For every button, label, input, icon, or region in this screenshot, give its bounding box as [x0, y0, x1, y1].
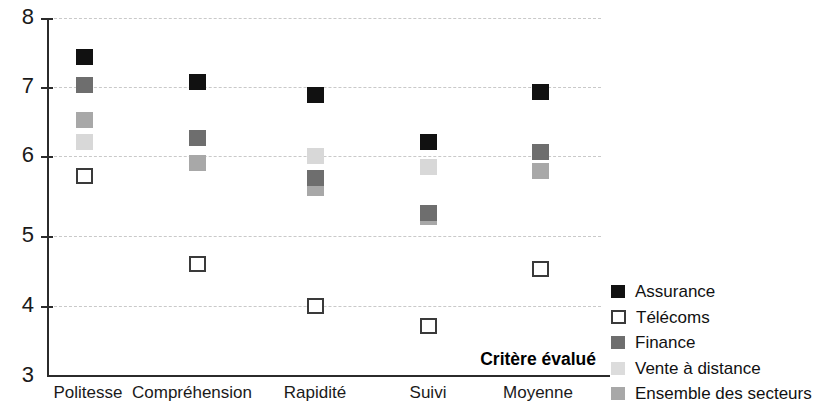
legend-swatch-assurance-icon [611, 285, 625, 298]
x-label-moyenne: Moyenne [468, 383, 608, 402]
legend-item-finance: Finance [611, 330, 835, 356]
point-telecoms-politesse [76, 168, 93, 184]
point-finance-politesse [76, 77, 93, 93]
point-telecoms-moyenne [532, 261, 549, 277]
y-tick-label-8: 8 [0, 6, 34, 28]
point-telecoms-rapidite [307, 298, 324, 314]
legend-label-telecoms: Télécoms [636, 308, 710, 327]
point-finance-comprehension [189, 130, 206, 146]
y-tick-7 [41, 87, 53, 89]
legend-swatch-telecoms-icon [611, 310, 626, 324]
legend-item-vente-a-distance: Vente à distance [611, 356, 835, 382]
gridline-7 [49, 87, 601, 88]
legend-swatch-vente-a-distance-icon [611, 362, 625, 375]
gridline-5 [49, 236, 601, 237]
x-axis-title: Critère évalué [480, 349, 596, 370]
legend-item-assurance: Assurance [611, 279, 835, 305]
point-finance-suivi [420, 205, 437, 221]
chart-figure: 8 7 6 5 4 3 Politesse Compréhension Rapi… [0, 0, 835, 419]
point-telecoms-comprehension [189, 256, 206, 272]
legend-swatch-ensemble-des-secteurs-icon [611, 387, 625, 400]
y-axis [47, 18, 49, 376]
point-finance-rapidite [307, 170, 324, 186]
y-tick-8 [41, 18, 53, 20]
legend-swatch-finance-icon [611, 336, 625, 349]
point-assurance-moyenne [532, 84, 549, 100]
y-tick-label-7: 7 [0, 75, 34, 97]
legend-label-assurance: Assurance [635, 282, 715, 301]
chart-legend: Assurance Télécoms Finance Vente à dista… [611, 279, 835, 407]
x-axis [47, 375, 610, 377]
y-tick-4 [41, 306, 53, 308]
plot-area: 8 7 6 5 4 3 Politesse Compréhension Rapi… [0, 0, 610, 419]
point-ensemble-des-secteurs-politesse [76, 112, 93, 128]
point-ensemble-des-secteurs-comprehension [189, 155, 206, 171]
point-ensemble-des-secteurs-moyenne [532, 163, 549, 179]
y-tick-6 [41, 156, 53, 158]
point-telecoms-suivi [420, 318, 437, 334]
y-tick-label-6: 6 [0, 144, 34, 166]
point-assurance-politesse [76, 49, 93, 65]
point-vente-a-distance-politesse [76, 134, 93, 150]
legend-item-telecoms: Télécoms [611, 305, 835, 331]
point-finance-moyenne [532, 144, 549, 160]
point-vente-a-distance-suivi [420, 159, 437, 175]
y-tick-label-4: 4 [0, 294, 34, 316]
point-assurance-comprehension [189, 74, 206, 90]
y-tick-5 [41, 236, 53, 238]
gridline-4 [49, 306, 601, 307]
point-vente-a-distance-rapidite [307, 148, 324, 164]
point-assurance-suivi [420, 134, 437, 150]
gridline-8 [49, 18, 601, 19]
gridline-6 [49, 156, 601, 157]
legend-label-ensemble-des-secteurs: Ensemble des secteurs [635, 384, 812, 403]
y-tick-label-5: 5 [0, 224, 34, 246]
x-label-comprehension: Compréhension [122, 383, 262, 402]
legend-item-ensemble-des-secteurs: Ensemble des secteurs [611, 381, 835, 407]
legend-label-finance: Finance [635, 333, 695, 352]
legend-label-vente-a-distance: Vente à distance [635, 359, 761, 378]
point-assurance-rapidite [307, 87, 324, 103]
